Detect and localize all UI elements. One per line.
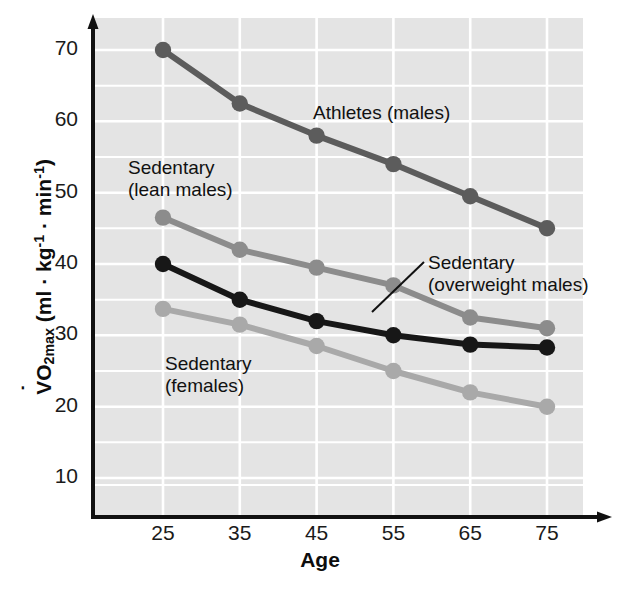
y-axis-tick-40: 40 (30, 250, 78, 274)
y-axis-label-units-close: ) (32, 159, 55, 166)
data-point-marker (232, 316, 248, 332)
x-axis-tick-45: 45 (287, 521, 347, 545)
series-label-3: Sedentary(females) (165, 353, 252, 398)
y-axis-label-sup-min: -1 (31, 166, 47, 179)
series-label-line-1: Sedentary (128, 157, 233, 179)
data-point-marker (385, 156, 401, 172)
y-axis-tick-70: 70 (30, 36, 78, 60)
series-label-1: Sedentary(lean males) (128, 157, 233, 202)
data-point-marker (462, 309, 478, 325)
series-label-0: Athletes (males) (313, 102, 450, 124)
data-point-marker (308, 338, 324, 354)
data-point-marker (232, 95, 248, 111)
x-axis-label: Age (240, 548, 400, 572)
data-point-marker (462, 384, 478, 400)
series-label-line-1: Sedentary (165, 353, 252, 375)
data-point-marker (462, 188, 478, 204)
series-label-line-2: (females) (165, 375, 252, 397)
series-label-line-2: (lean males) (128, 179, 233, 201)
y-axis-tick-30: 30 (30, 321, 78, 345)
y-axis-tick-50: 50 (30, 179, 78, 203)
x-axis-tick-75: 75 (517, 521, 577, 545)
y-axis-tick-60: 60 (30, 107, 78, 131)
vo2max-age-chart: VO2max (ml · kg-1 · min-1) Age 102030405… (0, 0, 629, 590)
data-point-marker (155, 209, 171, 225)
data-point-marker (539, 320, 555, 336)
data-point-marker (232, 292, 248, 308)
x-axis-tick-35: 35 (210, 521, 270, 545)
data-point-marker (462, 336, 478, 352)
data-point-marker (539, 220, 555, 236)
series-label-2: Sedentary(overweight males) (428, 252, 589, 297)
data-point-marker (539, 399, 555, 415)
y-axis-label-sup-kg: -1 (31, 235, 47, 248)
data-point-marker (308, 127, 324, 143)
series-label-line-2: (overweight males) (428, 274, 589, 296)
data-point-marker (155, 42, 171, 58)
x-axis-tick-25: 25 (133, 521, 193, 545)
y-axis-label-subscript-2: 2 (41, 357, 57, 365)
x-axis-tick-55: 55 (363, 521, 423, 545)
y-axis-tick-20: 20 (30, 393, 78, 417)
data-point-marker (308, 259, 324, 275)
y-axis-tick-10: 10 (30, 464, 78, 488)
data-point-marker (232, 242, 248, 258)
data-point-marker (385, 363, 401, 379)
data-point-marker (385, 327, 401, 343)
data-point-marker (308, 313, 324, 329)
data-point-marker (155, 256, 171, 272)
x-axis-tick-65: 65 (440, 521, 500, 545)
data-point-marker (539, 339, 555, 355)
series-label-line-1: Sedentary (428, 252, 589, 274)
data-point-marker (155, 301, 171, 317)
y-axis-label-o: O (32, 365, 55, 381)
